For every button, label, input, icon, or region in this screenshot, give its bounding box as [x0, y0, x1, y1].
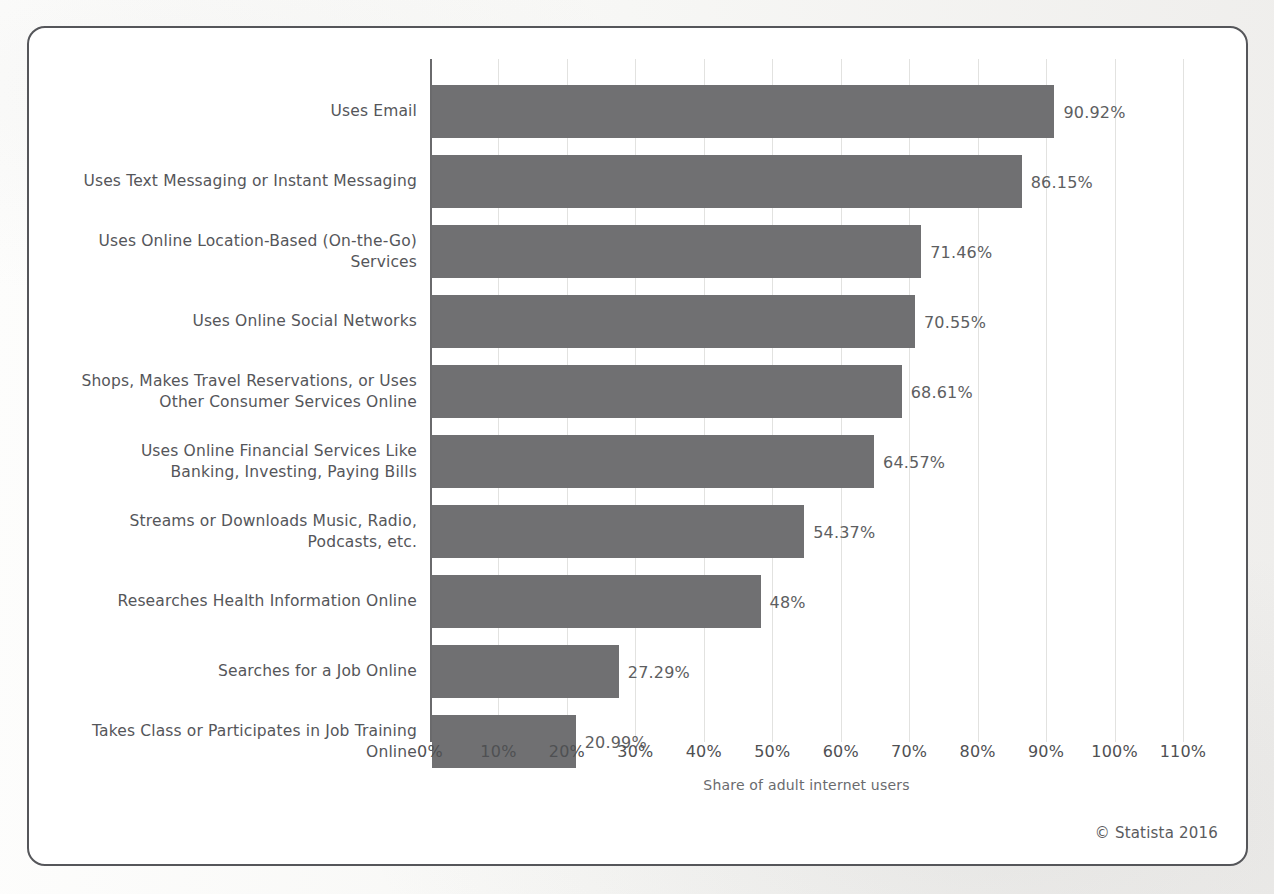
bar-row[interactable]: 90.92%: [430, 85, 1183, 138]
bar-value-label: 48%: [770, 592, 806, 611]
bar-row[interactable]: 64.57%: [430, 435, 1183, 488]
bar[interactable]: [432, 365, 902, 418]
x-tick-label: 110%: [1160, 742, 1207, 761]
bar-row[interactable]: 71.46%: [430, 225, 1183, 278]
category-label: Researches Health Information Online: [57, 575, 417, 628]
category-label-line: Uses Online Social Networks: [192, 311, 417, 332]
bar-value-label: 70.55%: [924, 312, 986, 331]
bar[interactable]: [432, 155, 1022, 208]
bar-value-label: 68.61%: [911, 382, 973, 401]
x-axis-ticks: 0%10%20%30%40%50%60%70%80%90%100%110%: [430, 742, 1183, 772]
x-tick-label: 70%: [891, 742, 927, 761]
category-label: Uses Text Messaging or Instant Messaging: [57, 155, 417, 208]
bar-value-label: 86.15%: [1031, 172, 1093, 191]
category-label-line: Online: [366, 742, 417, 763]
category-label: Shops, Makes Travel Reservations, or Use…: [57, 365, 417, 418]
category-label-line: Uses Text Messaging or Instant Messaging: [83, 171, 417, 192]
bar[interactable]: [432, 295, 915, 348]
bar-row[interactable]: 86.15%: [430, 155, 1183, 208]
chart-card: Uses EmailUses Text Messaging or Instant…: [27, 26, 1248, 866]
x-tick-label: 10%: [480, 742, 516, 761]
x-tick-label: 20%: [549, 742, 585, 761]
category-label-line: Researches Health Information Online: [117, 591, 417, 612]
category-label: Searches for a Job Online: [57, 645, 417, 698]
bar[interactable]: [432, 505, 804, 558]
category-label: Uses Online Location-Based (On-the-Go)Se…: [57, 225, 417, 278]
bar-value-label: 71.46%: [930, 242, 992, 261]
x-axis-title: Share of adult internet users: [430, 777, 1183, 793]
bar-row[interactable]: 27.29%: [430, 645, 1183, 698]
bar-value-label: 90.92%: [1063, 102, 1125, 121]
category-label: Streams or Downloads Music, Radio,Podcas…: [57, 505, 417, 558]
x-tick-label: 0%: [417, 742, 443, 761]
category-label: Uses Email: [57, 85, 417, 138]
gridline-110%: [1183, 59, 1184, 742]
x-tick-label: 100%: [1091, 742, 1138, 761]
bar-value-label: 54.37%: [813, 522, 875, 541]
x-tick-label: 90%: [1028, 742, 1064, 761]
category-label-line: Podcasts, etc.: [308, 532, 417, 553]
category-label: Uses Online Financial Services LikeBanki…: [57, 435, 417, 488]
bar-value-label: 27.29%: [628, 662, 690, 681]
category-label-line: Uses Email: [331, 101, 417, 122]
category-label-line: Takes Class or Participates in Job Train…: [92, 721, 417, 742]
category-label-line: Searches for a Job Online: [218, 661, 417, 682]
bar-row[interactable]: 54.37%: [430, 505, 1183, 558]
x-tick-label: 50%: [754, 742, 790, 761]
bar[interactable]: [432, 645, 619, 698]
category-label: Uses Online Social Networks: [57, 295, 417, 348]
category-label-line: Other Consumer Services Online: [159, 392, 417, 413]
category-label-line: Shops, Makes Travel Reservations, or Use…: [81, 371, 417, 392]
bar-row[interactable]: 48%: [430, 575, 1183, 628]
category-label: Takes Class or Participates in Job Train…: [57, 715, 417, 768]
category-label-line: Services: [350, 252, 417, 273]
x-tick-label: 80%: [960, 742, 996, 761]
bar-row[interactable]: 68.61%: [430, 365, 1183, 418]
x-tick-label: 60%: [823, 742, 859, 761]
category-axis-labels: Uses EmailUses Text Messaging or Instant…: [57, 59, 417, 742]
category-label-line: Uses Online Financial Services Like: [141, 441, 417, 462]
x-tick-label: 40%: [686, 742, 722, 761]
bar[interactable]: [432, 575, 761, 628]
x-tick-label: 30%: [617, 742, 653, 761]
category-label-line: Uses Online Location-Based (On-the-Go): [99, 231, 418, 252]
bar-row[interactable]: 70.55%: [430, 295, 1183, 348]
category-label-line: Banking, Investing, Paying Bills: [171, 462, 417, 483]
bar[interactable]: [432, 225, 921, 278]
bar[interactable]: [432, 435, 874, 488]
bar-value-label: 64.57%: [883, 452, 945, 471]
category-label-line: Streams or Downloads Music, Radio,: [130, 511, 417, 532]
copyright-notice: © Statista 2016: [1095, 824, 1218, 842]
plot-area: 90.92%86.15%71.46%70.55%68.61%64.57%54.3…: [430, 59, 1183, 742]
bar[interactable]: [432, 85, 1054, 138]
